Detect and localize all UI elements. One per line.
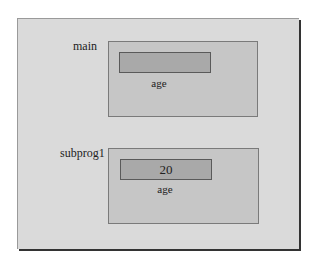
frame-label-main: main (73, 39, 97, 54)
frame-label-subprog1: subprog1 (60, 146, 105, 161)
frame-main: age (108, 41, 258, 117)
variable-label-main-age: age (109, 77, 209, 89)
variable-label-subprog1-age: age (115, 183, 215, 195)
variable-cell-subprog1-age: 20 (120, 159, 212, 180)
frame-subprog1: 20 age (108, 148, 259, 224)
variable-cell-main-age (119, 52, 211, 73)
